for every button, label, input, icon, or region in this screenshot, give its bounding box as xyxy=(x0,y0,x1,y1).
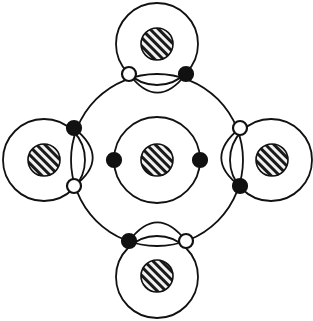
symmetric-graph-diagram xyxy=(0,0,313,321)
hatched-disk-south xyxy=(141,260,173,292)
node-right-top[interactable] xyxy=(233,121,247,135)
node-bottom-right[interactable] xyxy=(179,234,193,248)
node-bottom-left[interactable] xyxy=(122,234,136,248)
hatched-disk-center xyxy=(141,144,173,176)
node-left-bottom[interactable] xyxy=(67,179,81,193)
node-left-top[interactable] xyxy=(67,121,81,135)
node-center-left[interactable] xyxy=(107,153,121,167)
hatched-disk-north xyxy=(141,28,173,60)
diagram-canvas xyxy=(0,0,313,321)
hatched-disk-west xyxy=(28,144,60,176)
node-top-right[interactable] xyxy=(179,67,193,81)
node-top-left[interactable] xyxy=(122,67,136,81)
node-center-right[interactable] xyxy=(193,153,207,167)
node-right-bottom[interactable] xyxy=(233,179,247,193)
hatched-disk-east xyxy=(256,144,288,176)
